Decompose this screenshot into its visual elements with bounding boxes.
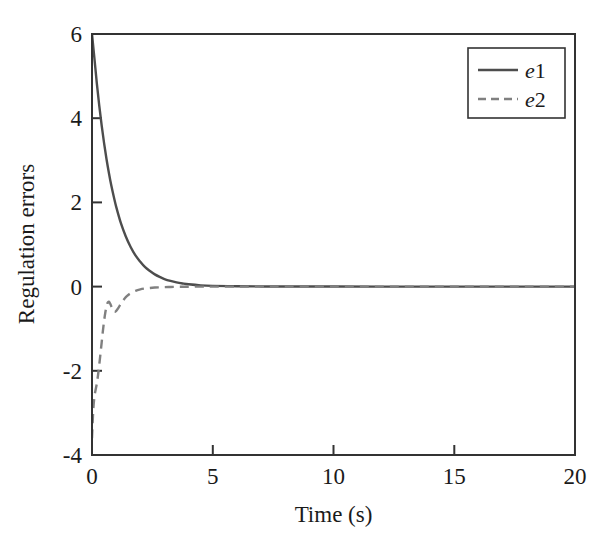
y-tick-label-6: 6 [71,22,83,47]
y-tick-label-2: 2 [71,190,83,215]
y-axis-title: Regulation errors [14,164,39,324]
chart-figure: 6 4 2 0 -2 -4 0 5 10 15 20 Time (s) Regu… [0,0,607,542]
legend-label-e1-suffix: 1 [535,58,546,83]
x-tick-label-20: 20 [564,464,587,489]
x-axis-title: Time (s) [295,502,373,527]
y-tick-label-neg2: -2 [63,359,82,384]
y-tick-label-neg4: -4 [63,443,83,468]
legend-label-e1: e1 [525,58,546,83]
legend-box [468,48,565,118]
chart-legend[interactable]: e1 e2 [468,48,565,118]
y-tick-label-0: 0 [71,275,83,300]
legend-label-e2-prefix: e [525,87,535,112]
x-tick-label-0: 0 [86,464,98,489]
legend-label-e1-prefix: e [525,58,535,83]
regulation-errors-line-chart: 6 4 2 0 -2 -4 0 5 10 15 20 Time (s) Regu… [0,0,607,542]
x-tick-label-15: 15 [443,464,466,489]
legend-label-e2-suffix: 2 [535,87,546,112]
x-tick-label-10: 10 [322,464,345,489]
legend-label-e2: e2 [525,87,546,112]
x-tick-label-5: 5 [207,464,219,489]
y-tick-label-4: 4 [71,106,83,131]
